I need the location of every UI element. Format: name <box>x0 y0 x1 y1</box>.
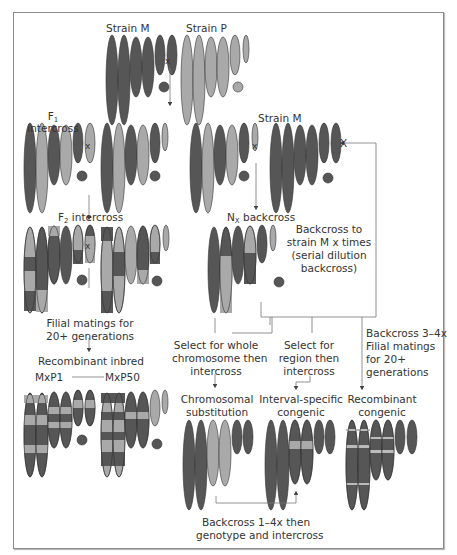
strain-p-chromosomes <box>181 35 249 125</box>
select-region-note: Select for region then intercross <box>278 339 340 378</box>
interval-congenic-chromosomes <box>265 420 335 510</box>
cross-symbol-feedback: X <box>340 137 347 150</box>
chromosomal-substitution-label: Chromosomal substitution <box>178 393 256 419</box>
mxp1-label: MxP1 <box>35 371 63 384</box>
f1-right-chromosomes <box>101 123 168 213</box>
strain-m-top-label: Strain M <box>106 22 150 35</box>
recombinant-inbred-label: Recombinant inbred <box>36 355 146 368</box>
cross-symbol-backcross: x <box>252 140 257 153</box>
interval-specific-congenic-label: Interval-specific congenic <box>259 393 343 419</box>
strain-m-right-chromosomes <box>270 123 341 213</box>
strain-m-right-label: Strain M <box>258 112 302 125</box>
strain-m-chromosomes <box>106 35 177 125</box>
mxp1-chromosomes <box>24 390 95 477</box>
backcross-1-4x-note: Backcross 1–4x then genotype and intercr… <box>196 516 316 542</box>
filial-matings-note: Filial matings for 20+ generations <box>44 317 136 343</box>
breeding-diagram <box>0 0 457 555</box>
f2-right-chromosomes <box>101 225 169 313</box>
branch-left <box>232 317 272 333</box>
f1-left-chromosomes <box>24 123 95 213</box>
nx-backcross-chromosomes <box>208 225 284 313</box>
f2-intercross-label: F2 intercross <box>58 211 123 228</box>
select-whole-chromosome-note: Select for whole chromosome then intercr… <box>172 339 260 378</box>
backcross-note: Backcross to strain M x times (serial di… <box>284 223 374 275</box>
recombinant-congenic-label: Recombinant congenic <box>346 393 418 419</box>
mxp50-chromosomes <box>101 390 168 477</box>
strain-p-top-label: Strain P <box>186 22 227 35</box>
chromosomal-substitution-chromosomes <box>183 420 253 510</box>
cross-symbol-f2: x <box>85 240 90 253</box>
cross-symbol-f1: x <box>85 140 90 153</box>
f1-intercross-label: intercross <box>23 122 83 135</box>
mxp50-label: MxP50 <box>105 371 140 384</box>
recombinant-congenic-chromosomes <box>346 420 417 510</box>
cross-symbol-top: x <box>165 55 170 68</box>
f1-backcross-chromosomes <box>190 123 258 213</box>
f2-left-chromosomes <box>24 225 95 313</box>
backcross-3-4x-note: Backcross 3–4x Filial matings for 20+ ge… <box>366 327 447 379</box>
